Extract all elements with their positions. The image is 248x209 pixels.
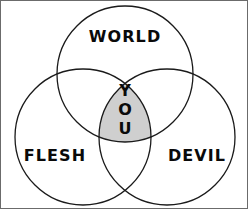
venn-label-world: WORLD	[89, 27, 162, 46]
venn-center-letter-o: O	[118, 100, 132, 119]
venn-diagram-figure: WORLD FLESH DEVIL Y O U	[0, 0, 248, 209]
venn-label-flesh: FLESH	[24, 146, 86, 165]
venn-center-letter-y: Y	[118, 81, 131, 100]
venn-diagram-canvas: WORLD FLESH DEVIL Y O U	[1, 1, 248, 209]
venn-center-letter-u: U	[119, 119, 132, 138]
venn-label-devil: DEVIL	[168, 146, 226, 165]
